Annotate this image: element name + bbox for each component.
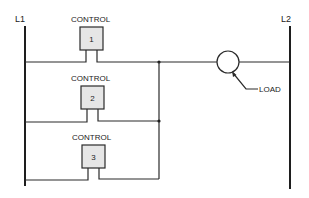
control-2-label: CONTROL — [71, 74, 111, 83]
rung-1: CONTROL 1 — [25, 15, 290, 73]
control-2-number: 2 — [90, 94, 95, 103]
rail-l2-label: L2 — [281, 14, 291, 24]
control-3-label: CONTROL — [72, 133, 112, 142]
load-circle — [217, 51, 239, 73]
rung-2-wire-right — [98, 109, 159, 121]
load-pointer: LOAD — [232, 71, 281, 94]
control-3-number: 3 — [91, 153, 96, 162]
control-1-label: CONTROL — [71, 15, 111, 24]
rung-1-wire-left — [25, 50, 86, 62]
rung-3-wire-right — [99, 168, 159, 179]
rung-3-wire-left — [25, 168, 88, 180]
control-1-number: 1 — [89, 35, 94, 44]
load-label: LOAD — [259, 85, 281, 94]
junction-dot-2 — [157, 119, 160, 122]
load-leader-line — [233, 73, 258, 89]
ladder-diagram: L1 L2 CONTROL 1 LOAD CONTROL 2 CONTROL 3 — [0, 0, 309, 198]
rung-1-wire-right — [97, 50, 217, 62]
rung-3: CONTROL 3 — [25, 133, 159, 180]
rung-2: CONTROL 2 — [25, 74, 161, 123]
rung-2-wire-left — [25, 109, 87, 122]
rail-l1-label: L1 — [15, 14, 25, 24]
